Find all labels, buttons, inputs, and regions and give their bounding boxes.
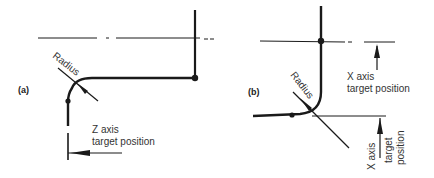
radius-arrow-a	[77, 83, 88, 94]
x-target-bottom-label-1: target	[383, 137, 394, 163]
centerline-a	[38, 38, 214, 39]
x-target-top-arrowhead-b	[374, 44, 380, 58]
panel-a-label: (a)	[18, 85, 29, 95]
tool-path-b	[253, 6, 321, 116]
z-axis-label: Z axis	[92, 124, 119, 135]
x-axis-top-label: X axis	[347, 71, 374, 82]
radius-label-a: Radius	[51, 50, 82, 78]
diagram-canvas: (a) Radius Z axis target position (b)	[0, 0, 434, 178]
x-target-bottom-arrowhead-b	[377, 118, 383, 134]
radius-label-b: Radius	[288, 69, 316, 100]
z-target-arrowhead-a	[70, 150, 90, 156]
point-a-left	[65, 98, 70, 103]
panel-a: (a) Radius Z axis target position	[18, 10, 214, 160]
z-target-label: target position	[92, 136, 155, 147]
point-b-left	[289, 112, 294, 117]
x-target-bottom-label-2: position	[395, 131, 406, 165]
panel-b: (b) Radius X axis target position X axis…	[248, 6, 410, 170]
panel-b-label: (b)	[248, 87, 260, 97]
x-axis-bottom-label: X axis	[366, 143, 377, 170]
radius-arrow-b	[300, 98, 312, 111]
tool-path-a	[68, 78, 195, 126]
x-target-top-label: target position	[347, 83, 410, 94]
centerline-b	[260, 41, 395, 42]
point-b-top	[318, 38, 324, 44]
point-a-top	[192, 75, 198, 81]
